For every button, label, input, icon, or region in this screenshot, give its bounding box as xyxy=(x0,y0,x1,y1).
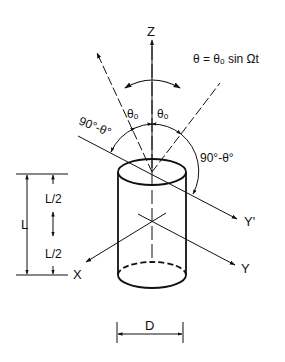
angle-arc-right xyxy=(181,134,199,194)
y-prime-axis: Y' xyxy=(78,136,255,229)
y-prime-axis-label: Y' xyxy=(244,214,255,229)
angle-arc-left xyxy=(111,128,135,152)
y-axis: Y xyxy=(138,214,250,276)
z-axis-label: Z xyxy=(147,24,155,39)
y-axis-label: Y xyxy=(241,261,250,276)
length-dimension: L L/2 L/2 xyxy=(16,174,68,275)
angle-arc-theta-right xyxy=(152,124,181,134)
half-length-top-label: L/2 xyxy=(45,192,62,206)
cylinder-bottom-visible-edge xyxy=(118,275,186,288)
theta-left-label: θₒ xyxy=(127,107,139,121)
half-length-bottom-label: L/2 xyxy=(45,247,62,261)
cylinder-bottom-hidden-edge xyxy=(118,262,186,275)
angle-arc-theta-left xyxy=(135,124,152,128)
complement-angle-left-label: 90°-θ° xyxy=(77,114,114,140)
diameter-label: D xyxy=(145,318,154,333)
tilted-axis-left xyxy=(97,53,152,172)
x-axis-label: X xyxy=(73,267,82,282)
oscillation-equation: θ = θₒ sin Ωt xyxy=(193,52,260,66)
theta-right-label: θₒ xyxy=(157,107,169,121)
length-label: L xyxy=(21,217,28,232)
diameter-dimension: D xyxy=(117,318,183,343)
z-axis: Z xyxy=(147,24,155,258)
complement-angle-right-label: 90°-θ° xyxy=(200,151,234,165)
cylinder-oscillation-diagram: Z θ = θₒ sin Ωt θₒ θₒ 90°-θ° 90°-θ° Y' X… xyxy=(0,0,285,362)
